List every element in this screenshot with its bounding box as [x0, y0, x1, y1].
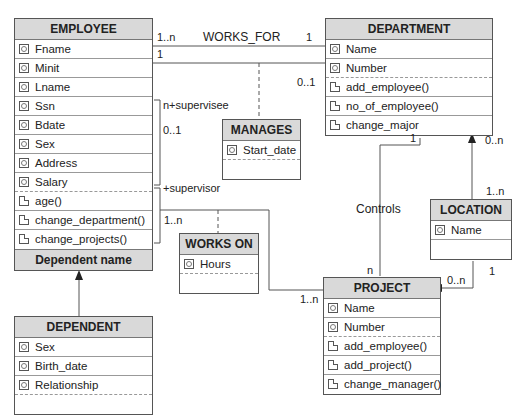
operation-age[interactable]: age() — [15, 192, 152, 211]
operation-add-employee[interactable]: add_employee() — [326, 78, 492, 97]
class-title: LOCATION — [431, 200, 511, 221]
class-title: WORKS ON — [180, 234, 258, 255]
supervisor-role: +supervisor — [163, 182, 220, 194]
attribute-fname[interactable]: Fname — [15, 40, 152, 59]
attribute-hours[interactable]: Hours — [180, 255, 258, 274]
class-title: DEPARTMENT — [326, 19, 492, 40]
proj-location-proj-multiplicity: 0..n — [447, 274, 465, 286]
attribute-salary[interactable]: Salary — [15, 173, 152, 192]
operation-change-manager[interactable]: change_manager() — [324, 375, 440, 394]
attribute-bdate[interactable]: Bdate — [15, 116, 152, 135]
works-on-emp-multiplicity: 1..n — [164, 214, 182, 226]
operation-icon — [19, 215, 29, 225]
class-works-on[interactable]: WORKS ON Hours — [179, 233, 259, 294]
attribute-lname[interactable]: Lname — [15, 78, 152, 97]
operation-icon — [330, 101, 340, 111]
attribute-icon — [19, 82, 29, 92]
attribute-relationship[interactable]: Relationship — [15, 376, 152, 395]
attribute-icon — [19, 361, 29, 371]
attribute-icon — [19, 177, 29, 187]
attribute-icon — [19, 44, 29, 54]
attribute-start-date[interactable]: Start_date — [223, 141, 300, 160]
works-for-label: WORKS_FOR — [203, 30, 280, 44]
attribute-number[interactable]: Number — [326, 59, 492, 78]
supervisee-role: n+supervisee — [163, 99, 229, 111]
attribute-minit[interactable]: Minit — [15, 59, 152, 78]
class-dependent[interactable]: DEPENDENT Sex Birth_date Relationship — [14, 316, 153, 415]
attribute-icon — [328, 303, 338, 313]
controls-proj-multiplicity: n — [367, 264, 373, 276]
attribute-sex[interactable]: Sex — [15, 338, 152, 357]
attribute-icon — [328, 322, 338, 332]
attribute-icon — [435, 225, 445, 235]
attribute-name[interactable]: Name — [326, 40, 492, 59]
attribute-icon — [19, 380, 29, 390]
class-manages[interactable]: MANAGES Start_date — [222, 119, 301, 180]
attribute-icon — [227, 145, 237, 155]
class-title: EMPLOYEE — [15, 19, 152, 40]
attribute-ssn[interactable]: Ssn — [15, 97, 152, 116]
works-for-emp-multiplicity: 1..n — [157, 31, 175, 43]
operation-icon — [330, 82, 340, 92]
proj-location-loc-multiplicity: 1 — [489, 265, 495, 277]
attribute-icon — [330, 44, 340, 54]
attribute-address[interactable]: Address — [15, 154, 152, 173]
attribute-sex[interactable]: Sex — [15, 135, 152, 154]
attribute-number[interactable]: Number — [324, 318, 440, 337]
class-department[interactable]: DEPARTMENT Name Number add_employee() no… — [325, 18, 493, 136]
operation-add-project[interactable]: add_project() — [324, 356, 440, 375]
attribute-icon — [330, 63, 340, 73]
operation-no-of-employee[interactable]: no_of_employee() — [326, 97, 492, 116]
operation-change-major[interactable]: change_major — [326, 116, 492, 135]
class-title: PROJECT — [324, 278, 440, 299]
attribute-icon — [19, 139, 29, 149]
class-project[interactable]: PROJECT Name Number add_employee() add_p… — [323, 277, 441, 395]
attribute-name[interactable]: Name — [431, 221, 511, 240]
operation-icon — [330, 120, 340, 130]
attribute-icon — [19, 63, 29, 73]
attribute-icon — [184, 259, 194, 269]
controls-dept-multiplicity: 1 — [410, 132, 416, 144]
manages-dept-multiplicity: 0..1 — [297, 76, 315, 88]
manages-emp-multiplicity: 1 — [157, 48, 163, 60]
operation-icon — [328, 379, 338, 389]
dept-location-dept-multiplicity: 0..n — [485, 134, 503, 146]
qualifier-dependent-name: Dependent name — [15, 249, 152, 270]
operation-change-department[interactable]: change_department() — [15, 211, 152, 230]
attribute-icon — [19, 120, 29, 130]
supervisee-multiplicity: 0..1 — [163, 124, 181, 136]
attribute-icon — [19, 101, 29, 111]
attribute-icon — [19, 342, 29, 352]
attribute-birth-date[interactable]: Birth_date — [15, 357, 152, 376]
operation-add-employee[interactable]: add_employee() — [324, 337, 440, 356]
works-on-proj-multiplicity: 1..n — [300, 293, 318, 305]
works-for-dept-multiplicity: 1 — [306, 31, 312, 43]
class-title: DEPENDENT — [15, 317, 152, 338]
operation-icon — [19, 196, 29, 206]
operation-icon — [328, 341, 338, 351]
operation-icon — [19, 234, 29, 244]
attribute-name[interactable]: Name — [324, 299, 440, 318]
controls-label: Controls — [356, 202, 401, 216]
attribute-icon — [19, 158, 29, 168]
dept-location-loc-multiplicity: 1..n — [486, 185, 504, 197]
operation-change-projects[interactable]: change_projects() — [15, 230, 152, 249]
class-title: MANAGES — [223, 120, 300, 141]
class-location[interactable]: LOCATION Name — [430, 199, 512, 260]
class-employee[interactable]: EMPLOYEE Fname Minit Lname Ssn Bdate Sex… — [14, 18, 153, 271]
operation-icon — [328, 360, 338, 370]
